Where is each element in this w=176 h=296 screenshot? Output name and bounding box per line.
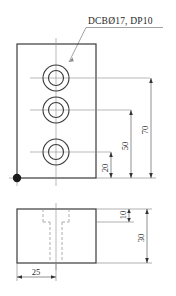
dim-70-arrow-top: [149, 78, 153, 83]
dimension-30: 30: [136, 209, 149, 263]
hole-callout-text: DCBØ17, DP10: [88, 16, 153, 26]
front-view-group: [9, 38, 150, 186]
dim-50-arrow-bottom: [129, 173, 133, 178]
hole-callout-group: DCBØ17, DP10: [69, 16, 163, 62]
dim-70-text: 70: [140, 126, 150, 135]
dim-50-text: 50: [120, 142, 130, 151]
dim-30-text: 30: [136, 234, 146, 243]
dim-20-arrow-bottom: [109, 173, 113, 178]
dimension-70: 70: [140, 78, 153, 178]
dim-50-arrow-top: [129, 110, 133, 115]
dim-20-text: 20: [100, 164, 110, 173]
datum-dot-icon: [13, 174, 21, 182]
dim-70-arrow-bottom: [149, 173, 153, 178]
front-view-dimensions: 20 50 70: [96, 78, 156, 178]
dim-25-arrow-left: [17, 275, 22, 279]
front-view-outline: [17, 44, 96, 178]
dimension-25: 25: [17, 263, 56, 281]
origin-datum-marker: [9, 170, 30, 186]
callout-leader-line: [69, 28, 86, 63]
dim-10-text: 10: [118, 211, 128, 220]
dimension-20: 20: [100, 152, 113, 178]
dim-20-arrow-top: [109, 152, 113, 157]
side-view-outline: [17, 209, 96, 263]
dim-30-arrow-top: [145, 209, 149, 214]
drawing-svg: DCBØ17, DP10: [0, 0, 176, 296]
technical-drawing-canvas: DCBØ17, DP10: [0, 0, 176, 296]
dim-25-text: 25: [32, 267, 41, 277]
dim-30-arrow-bottom: [145, 258, 149, 263]
side-view-group: [17, 203, 96, 270]
side-view-dimensions: 10 30 25: [17, 209, 152, 281]
dimension-10: 10: [118, 209, 131, 222]
dimension-50: 50: [120, 110, 133, 178]
dim-25-arrow-right: [51, 275, 56, 279]
